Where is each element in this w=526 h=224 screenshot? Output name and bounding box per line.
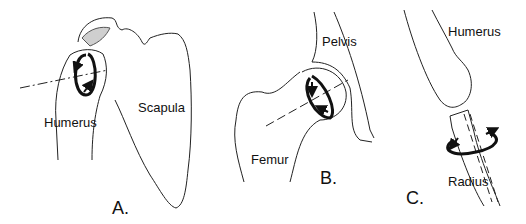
label-pelvis: Pelvis	[322, 34, 357, 49]
label-femur: Femur	[251, 152, 289, 167]
label-scapula: Scapula	[138, 100, 185, 115]
humerus-a-outline	[56, 50, 107, 160]
acromion	[82, 27, 110, 46]
label-radius: Radius	[448, 174, 488, 189]
rotation-arrow-b	[307, 76, 333, 118]
label-humerus-c: Humerus	[448, 24, 501, 39]
panel-label-b: B.	[320, 168, 337, 189]
joint-rotation-diagram: Humerus Scapula A. Pelvis Femur B. Humer…	[0, 0, 526, 224]
panel-label-a: A.	[112, 198, 129, 219]
panel-label-c: C.	[406, 188, 424, 209]
radius-outline	[450, 110, 500, 206]
pelvis-outline-right	[334, 12, 374, 138]
label-humerus-a: Humerus	[44, 115, 97, 130]
